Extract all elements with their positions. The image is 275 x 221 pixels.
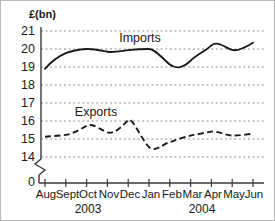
xtick-label-mar: Mar [183, 188, 203, 200]
xtick-label-apr: Apr [204, 188, 222, 200]
xtick-label-jun: Jun [245, 188, 264, 200]
ytick-label-20: 20 [21, 42, 35, 56]
series-imports-line [45, 43, 253, 69]
x-axis [39, 179, 264, 187]
y-tick-labels: 21 20 19 18 17 16 15 14 0 [21, 24, 35, 189]
series-label-imports: Imports [119, 31, 161, 45]
series-exports-group: Exports [45, 105, 253, 149]
ytick-label-zero: 0 [28, 175, 35, 189]
ytick-label-19: 19 [21, 60, 35, 74]
series-exports-line [45, 120, 253, 149]
xtick-label-dec: Dec [120, 188, 141, 200]
ytick-label-14: 14 [21, 150, 35, 164]
ytick-label-15: 15 [21, 132, 35, 146]
xtick-label-aug: Aug [36, 188, 56, 200]
xtick-label-may: May [223, 188, 245, 200]
xtick-label-jan: Jan [142, 188, 161, 200]
y-axis-break-zigzag [35, 159, 45, 175]
ytick-label-18: 18 [21, 78, 35, 92]
xtick-label-feb: Feb [162, 188, 182, 200]
ytick-label-16: 16 [21, 114, 35, 128]
ytick-label-17: 17 [21, 96, 35, 110]
y-axis-unit-label: £(bn) [29, 8, 56, 20]
xtick-label-sept: Sept [56, 188, 80, 200]
x-tick-labels: Aug Sept Oct Nov Dec Jan Feb Mar Apr May… [36, 188, 264, 200]
ytick-label-21: 21 [21, 24, 35, 38]
series-imports-group: Imports [45, 31, 253, 69]
year-group-labels: 2003 2004 [75, 202, 216, 216]
y-axis [35, 27, 45, 183]
chart-canvas: £(bn) 21 20 19 18 17 16 15 14 0 Imports … [1, 1, 275, 221]
series-label-exports: Exports [75, 105, 117, 119]
xtick-label-oct: Oct [79, 188, 98, 200]
year-label-2003: 2003 [75, 202, 102, 216]
y-axis-unit: £(bn) [29, 8, 56, 20]
xtick-label-nov: Nov [99, 188, 120, 200]
trade-line-chart: £(bn) 21 20 19 18 17 16 15 14 0 Imports … [0, 0, 275, 221]
year-label-2004: 2004 [189, 202, 216, 216]
